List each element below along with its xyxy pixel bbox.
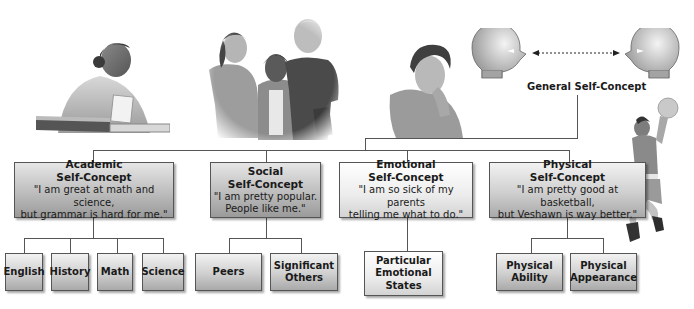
connector-general-horizontal — [365, 138, 578, 139]
physical-ability-box: Physical Ability — [496, 253, 563, 291]
math-label: Math — [101, 266, 130, 279]
frustrated-teen-illustration — [388, 35, 468, 138]
connector-level2-bus — [93, 150, 570, 151]
connector-math — [117, 238, 118, 253]
connector-social — [266, 150, 267, 162]
peers-label: Peers — [213, 266, 245, 279]
academic-self-concept-box: Academic Self-Concept "I am great at mat… — [14, 162, 174, 218]
english-label: English — [3, 266, 44, 279]
connector-physical-bus — [531, 238, 604, 239]
history-label: History — [50, 266, 91, 279]
physical-ability-line1: Physical — [506, 260, 552, 273]
english-box: English — [5, 253, 43, 291]
science-box: Science — [142, 253, 184, 291]
emotional-quote-line2: telling me what to do." — [349, 209, 463, 222]
connector-academic-bus — [24, 238, 164, 239]
significant-others-line1: Significant — [274, 260, 334, 273]
physical-self-concept-box: Physical Self-Concept "I am pretty good … — [489, 162, 646, 218]
academic-quote-line1: "I am great at math and science, — [15, 184, 173, 209]
emotional-quote-line1: "I am so sick of my parents — [340, 184, 472, 209]
connector-to-bus — [365, 138, 366, 150]
student-studying-illustration — [30, 38, 170, 138]
particular-emotional-states-line1: Particular — [376, 255, 431, 268]
emotional-self-concept-box: Emotional Self-Concept "I am so sick of … — [339, 162, 473, 218]
peers-box: Peers — [195, 253, 262, 291]
physical-title-line1: Physical — [543, 158, 592, 171]
physical-appearance-box: Physical Appearance — [570, 253, 637, 291]
head-necks — [468, 70, 683, 80]
physical-quote-line1: "I am pretty good at basketball, — [490, 184, 645, 209]
social-title-line2: Self-Concept — [228, 178, 303, 191]
connector-social-bus — [229, 238, 302, 239]
physical-quote-line2: but Veshawn is way better." — [498, 209, 637, 222]
group-of-friends-illustration — [203, 10, 345, 145]
connector-history — [70, 238, 71, 253]
emotional-title-line2: Self-Concept — [368, 171, 443, 184]
connector-significant-others — [301, 238, 302, 253]
history-box: History — [51, 253, 89, 291]
connector-science — [163, 238, 164, 253]
connector-general-down — [577, 95, 578, 139]
social-quote-line2: People like me." — [225, 203, 305, 216]
academic-title-line2: Self-Concept — [56, 171, 131, 184]
significant-others-box: Significant Others — [270, 253, 338, 291]
connector-physical-ability — [531, 238, 532, 253]
particular-emotional-states-line2: Emotional — [375, 267, 432, 280]
physical-appearance-line1: Physical — [580, 260, 626, 273]
physical-title-line2: Self-Concept — [530, 171, 605, 184]
particular-emotional-states-box: Particular Emotional States — [364, 251, 443, 296]
physical-appearance-line2: Appearance — [570, 272, 637, 285]
particular-emotional-states-line3: States — [385, 280, 421, 293]
connector-emotional-down — [407, 217, 408, 253]
social-quote-line1: "I am pretty popular. — [214, 191, 318, 204]
science-label: Science — [141, 266, 184, 279]
significant-others-line2: Others — [285, 272, 323, 285]
social-title-line1: Social — [248, 165, 283, 178]
social-self-concept-box: Social Self-Concept "I am pretty popular… — [210, 162, 321, 218]
physical-ability-line2: Ability — [511, 272, 547, 285]
emotional-title-line1: Emotional — [376, 158, 435, 171]
connector-peers — [229, 238, 230, 253]
connector-physical-appearance — [603, 238, 604, 253]
academic-quote-line2: but grammar is hard for me." — [21, 209, 168, 222]
connector-social-down — [266, 217, 267, 238]
connector-english — [24, 238, 25, 253]
general-self-concept-label: General Self-Concept — [527, 81, 646, 92]
math-box: Math — [97, 253, 133, 291]
academic-title-line1: Academic — [66, 158, 123, 171]
